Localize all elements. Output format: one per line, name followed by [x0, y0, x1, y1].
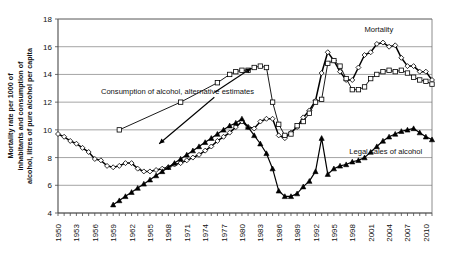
marker-consumption-of-alcohol-alternative-estimates — [418, 78, 422, 82]
y-tick-label-16: 16 — [43, 43, 52, 52]
marker-consumption-of-alcohol-alternative-estimates — [227, 72, 231, 76]
marker-mortality — [362, 53, 367, 58]
y-tick-label-12: 12 — [43, 98, 52, 107]
x-axis-ticks: 1950195319561959196219651968197119741977… — [54, 213, 432, 242]
marker-consumption-of-alcohol-alternative-estimates — [240, 68, 244, 72]
marker-consumption-of-alcohol-alternative-estimates — [332, 58, 336, 62]
annotation-leader-alt-low — [159, 97, 214, 143]
marker-mortality — [276, 133, 281, 138]
x-tick-label-2001: 2001 — [367, 223, 376, 241]
plot-border — [58, 19, 432, 213]
x-tick-label-1950: 1950 — [54, 223, 63, 241]
x-tick-label-1974: 1974 — [201, 223, 210, 241]
marker-consumption-of-alcohol-alternative-estimates — [356, 87, 360, 91]
marker-consumption-of-alcohol-alternative-estimates — [387, 68, 391, 72]
y-tick-label-10: 10 — [43, 126, 52, 135]
marker-mortality — [350, 77, 355, 82]
marker-legal-sales-of-alcohol — [313, 169, 318, 174]
y-tick-label-8: 8 — [48, 154, 53, 163]
marker-mortality — [111, 165, 116, 170]
marker-consumption-of-alcohol-alternative-estimates — [283, 133, 287, 137]
marker-legal-sales-of-alcohol — [276, 188, 281, 193]
marker-consumption-of-alcohol-alternative-estimates — [264, 65, 268, 69]
marker-consumption-of-alcohol-alternative-estimates — [178, 100, 182, 104]
series-line-legal-sales-of-alcohol — [113, 119, 432, 205]
marker-consumption-of-alcohol-alternative-estimates — [289, 132, 293, 136]
y-gridlines — [58, 19, 432, 213]
alcohol-mortality-line-chart: Mortality rate per 1000 of inhabitants a… — [0, 0, 449, 261]
marker-consumption-of-alcohol-alternative-estimates — [326, 61, 330, 65]
marker-legal-sales-of-alcohol — [270, 166, 275, 171]
x-tick-label-1989: 1989 — [293, 223, 302, 241]
x-tick-label-1953: 1953 — [72, 223, 81, 241]
marker-mortality — [270, 116, 275, 121]
x-tick-label-2004: 2004 — [385, 223, 394, 241]
y-tick-label-4: 4 — [48, 209, 53, 218]
marker-mortality — [141, 169, 146, 174]
marker-consumption-of-alcohol-alternative-estimates — [430, 82, 434, 86]
marker-consumption-of-alcohol-alternative-estimates — [295, 124, 299, 128]
x-tick-label-1959: 1959 — [109, 223, 118, 241]
y-axis-title: Mortality rate per 1000 of inhabitants a… — [6, 47, 34, 184]
y-axis-title-line-3: alcohol, litres of pure alcohol per capi… — [25, 47, 34, 184]
marker-consumption-of-alcohol-alternative-estimates — [270, 100, 274, 104]
marker-consumption-of-alcohol-alternative-estimates — [424, 79, 428, 83]
marker-consumption-of-alcohol-alternative-estimates — [307, 111, 311, 115]
x-tick-label-1980: 1980 — [238, 223, 247, 241]
marker-consumption-of-alcohol-alternative-estimates — [117, 128, 121, 132]
marker-legal-sales-of-alcohol — [319, 136, 324, 141]
marker-consumption-of-alcohol-alternative-estimates — [375, 72, 379, 76]
x-tick-label-1983: 1983 — [256, 223, 265, 241]
marker-mortality — [147, 169, 152, 174]
chart-container: Mortality rate per 1000 of inhabitants a… — [0, 0, 449, 261]
x-tick-label-1977: 1977 — [220, 223, 229, 241]
marker-mortality — [154, 168, 159, 173]
x-tick-label-1986: 1986 — [275, 223, 284, 241]
y-axis-ticks: 4681012141618 — [43, 15, 58, 218]
data-series-layer — [56, 40, 435, 207]
marker-mortality — [117, 163, 122, 168]
marker-consumption-of-alcohol-alternative-estimates — [252, 65, 256, 69]
marker-consumption-of-alcohol-alternative-estimates — [258, 64, 262, 68]
marker-legal-sales-of-alcohol — [239, 116, 244, 121]
annotation-alternative-estimates: Consumption of alcohol, alternative esti… — [101, 87, 254, 96]
annotation-legal-sales: Legal sales of alcohol — [349, 147, 422, 156]
x-tick-label-2007: 2007 — [403, 223, 412, 241]
marker-consumption-of-alcohol-alternative-estimates — [405, 71, 409, 75]
x-tick-label-1998: 1998 — [348, 223, 357, 241]
marker-consumption-of-alcohol-alternative-estimates — [393, 69, 397, 73]
x-tick-label-1956: 1956 — [91, 223, 100, 241]
marker-consumption-of-alcohol-alternative-estimates — [399, 68, 403, 72]
marker-consumption-of-alcohol-alternative-estimates — [344, 76, 348, 80]
x-tick-label-1965: 1965 — [146, 223, 155, 241]
x-tick-label-1992: 1992 — [312, 223, 321, 241]
y-axis-title-line-1: Mortality rate per 1000 of — [6, 73, 15, 159]
x-tick-label-1971: 1971 — [183, 223, 192, 241]
x-tick-label-1968: 1968 — [164, 223, 173, 241]
marker-mortality — [264, 116, 269, 121]
y-tick-label-6: 6 — [48, 181, 53, 190]
marker-consumption-of-alcohol-alternative-estimates — [277, 122, 281, 126]
marker-consumption-of-alcohol-alternative-estimates — [362, 85, 366, 89]
x-tick-label-2010: 2010 — [422, 223, 431, 241]
marker-consumption-of-alcohol-alternative-estimates — [301, 119, 305, 123]
marker-consumption-of-alcohol-alternative-estimates — [350, 87, 354, 91]
marker-consumption-of-alcohol-alternative-estimates — [368, 76, 372, 80]
marker-consumption-of-alcohol-alternative-estimates — [338, 64, 342, 68]
annotations-layer: MortalityConsumption of alcohol, alterna… — [101, 25, 423, 156]
y-tick-label-18: 18 — [43, 15, 52, 24]
marker-consumption-of-alcohol-alternative-estimates — [234, 69, 238, 73]
marker-mortality — [123, 161, 128, 166]
marker-consumption-of-alcohol-alternative-estimates — [411, 75, 415, 79]
marker-consumption-of-alcohol-alternative-estimates — [381, 69, 385, 73]
marker-consumption-of-alcohol-alternative-estimates — [215, 81, 219, 85]
x-tick-label-1962: 1962 — [128, 223, 137, 241]
y-tick-label-14: 14 — [43, 70, 52, 79]
marker-consumption-of-alcohol-alternative-estimates — [319, 97, 323, 101]
y-axis-title-line-2: inhabitants and consumption of — [16, 61, 25, 171]
marker-consumption-of-alcohol-alternative-estimates — [313, 100, 317, 104]
marker-mortality — [356, 65, 361, 70]
marker-mortality — [190, 155, 195, 160]
marker-mortality — [184, 158, 189, 163]
annotation-mortality: Mortality — [365, 25, 394, 34]
